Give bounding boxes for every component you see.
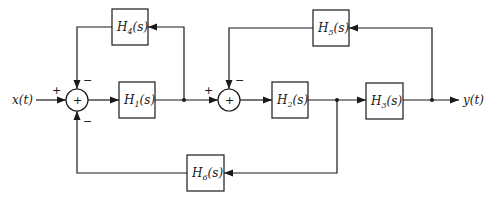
- arrow-icon: [226, 80, 233, 89]
- wire-h6-s1: [77, 111, 187, 173]
- svg-text:H2(s): H2(s): [276, 93, 308, 109]
- arrow-icon: [357, 97, 366, 104]
- block-h3: H3(s): [366, 83, 403, 119]
- svg-text:H6(s): H6(s): [191, 166, 223, 182]
- sign-minus-s1-bottom: −: [83, 115, 92, 128]
- sign-minus-s2-top: −: [235, 74, 244, 87]
- arrow-icon: [74, 111, 81, 120]
- output-label: y(t): [462, 93, 484, 107]
- arrow-icon: [209, 97, 218, 104]
- svg-text:H3(s): H3(s): [370, 94, 402, 110]
- summing-junction-1: +: [66, 89, 88, 111]
- arrow-icon: [74, 80, 81, 89]
- sign-plus-s2-left: +: [204, 84, 213, 97]
- block-diagram: x(t) + + − − H1(s) + H4(s) + − H2(s): [0, 0, 492, 207]
- arrow-icon: [57, 97, 66, 104]
- block-h5: H5(s): [313, 10, 349, 46]
- block-h2: H2(s): [272, 82, 308, 118]
- svg-text:H4(s): H4(s): [116, 20, 148, 36]
- arrow-icon: [349, 25, 358, 32]
- block-h6: H6(s): [187, 155, 224, 191]
- svg-text:H1(s): H1(s): [123, 93, 155, 109]
- summer-2-symbol: +: [225, 94, 234, 107]
- arrow-icon: [224, 170, 233, 177]
- input-label: x(t): [12, 93, 33, 107]
- arrow-icon: [263, 97, 272, 104]
- block-h4: H4(s): [112, 9, 148, 45]
- block-h1: H1(s): [119, 82, 155, 118]
- summing-junction-2: +: [218, 89, 240, 111]
- arrow-icon: [450, 97, 459, 104]
- sign-plus-s1-left: +: [52, 84, 61, 97]
- sign-minus-s1-top: −: [83, 74, 92, 87]
- arrow-icon: [110, 97, 119, 104]
- summer-1-symbol: +: [73, 94, 82, 107]
- arrow-icon: [148, 24, 157, 31]
- svg-text:H5(s): H5(s): [317, 21, 349, 37]
